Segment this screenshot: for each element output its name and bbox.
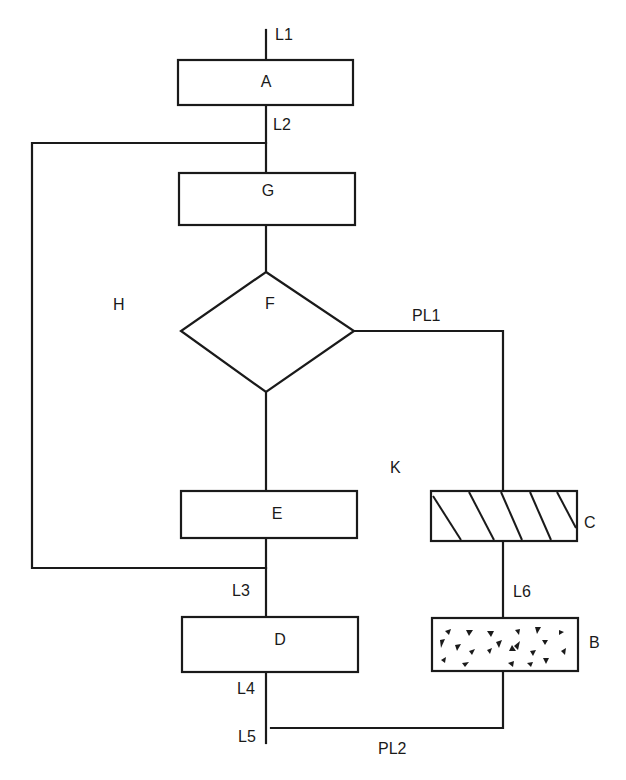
node-d-label: D: [274, 631, 286, 648]
node-e-label: E: [272, 505, 283, 522]
node-c-hatched: C: [431, 491, 596, 541]
node-a: A: [178, 60, 353, 105]
label-l4: L4: [237, 680, 255, 697]
region-label-h: H: [113, 296, 125, 313]
label-l6: L6: [513, 583, 531, 600]
label-l1: L1: [275, 26, 293, 43]
label-pl1: PL1: [412, 307, 441, 324]
node-b-label: B: [589, 634, 600, 651]
node-e: E: [181, 491, 357, 538]
label-l3: L3: [232, 582, 250, 599]
line-pl1: [354, 331, 503, 491]
node-a-label: A: [261, 73, 272, 90]
label-l5: L5: [238, 728, 256, 745]
node-g-label: G: [262, 182, 274, 199]
node-f-label: F: [265, 295, 275, 312]
node-g: G: [179, 173, 355, 225]
node-c-label: C: [584, 514, 596, 531]
flowchart-diagram: A G F E D: [0, 0, 626, 780]
label-l2: L2: [273, 116, 291, 133]
label-pl2: PL2: [378, 740, 407, 757]
node-d: D: [182, 617, 358, 672]
region-label-k: K: [390, 459, 401, 476]
line-pl2: [271, 671, 503, 728]
node-b-stippled: B: [432, 618, 600, 671]
node-f-decision: F: [181, 272, 354, 392]
